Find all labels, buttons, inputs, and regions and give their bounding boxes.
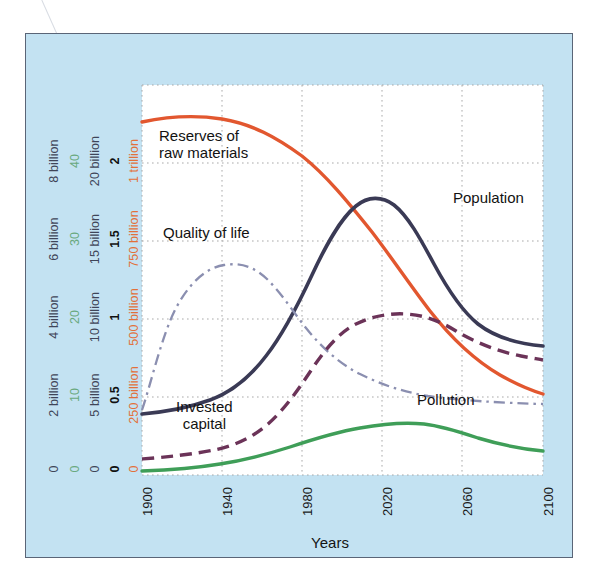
y-axis-label-columns: 2 billion 4 billion 6 billion 8 billion … [44, 60, 144, 480]
y-tick-invested-4: 2 [108, 157, 122, 164]
y-tick-quality-1: 10 [68, 388, 82, 402]
y-axis-quality-column: 10 20 30 40 [65, 60, 85, 480]
y-tick-reserves-1: 250 billion [127, 366, 141, 423]
y-tick-reserves-4: 1 trillion [127, 139, 141, 183]
y-zero-reserves: 0 [127, 466, 141, 473]
y-axis-population-column: 2 billion 4 billion 6 billion 8 billion [44, 60, 64, 480]
y-tick-invested-1: 0.5 [108, 386, 122, 404]
y-zero-invested: 0 [108, 466, 122, 473]
y-axis-pollution-column: 5 billion 10 billion 15 billion 20 billi… [85, 60, 105, 480]
y-tick-quality-4: 40 [68, 154, 82, 168]
y-tick-population-4: 8 billion [47, 139, 61, 182]
annotation-reserves: Reserves of raw materials [159, 128, 248, 162]
x-tick-1980: 1980 [300, 487, 315, 516]
y-zero-quality: 0 [68, 466, 82, 473]
y-tick-quality-2: 20 [68, 310, 82, 324]
y-tick-pollution-2: 10 billion [88, 292, 102, 342]
figure-root: 2 billion 4 billion 6 billion 8 billion … [0, 0, 600, 583]
x-axis-title: Years [0, 534, 600, 551]
annotation-pollution: Pollution [417, 392, 475, 409]
x-tick-2020: 2020 [380, 487, 395, 516]
x-tick-2060: 2060 [460, 487, 475, 516]
x-tick-1900: 1900 [140, 487, 155, 516]
annotation-invested: Invested capital [176, 399, 233, 433]
y-zero-population: 0 [47, 466, 61, 473]
y-axis-zero-row: 0 0 0 0 0 [44, 462, 144, 482]
y-tick-pollution-4: 20 billion [88, 136, 102, 186]
y-tick-invested-2: 1 [108, 313, 122, 320]
y-zero-pollution: 0 [88, 466, 102, 473]
y-tick-reserves-2: 500 billion [127, 288, 141, 345]
annotation-population: Population [453, 190, 524, 207]
annotation-quality: Quality of life [163, 225, 250, 242]
y-axis-invested-column: 0.5 1 1.5 2 [105, 60, 125, 480]
y-tick-reserves-3: 750 billion [127, 210, 141, 267]
y-axis-reserves-column: 250 billion 500 billion 750 billion 1 tr… [124, 60, 144, 480]
y-tick-population-2: 4 billion [47, 295, 61, 338]
y-tick-pollution-1: 5 billion [88, 373, 102, 416]
x-axis-title-text: Years [311, 534, 349, 551]
x-axis-ticks: 1900 1940 1980 2020 2060 2100 [0, 482, 600, 532]
x-tick-1940: 1940 [220, 487, 235, 516]
x-tick-2100: 2100 [541, 487, 556, 516]
y-tick-quality-3: 30 [68, 232, 82, 246]
y-tick-population-1: 2 billion [47, 373, 61, 416]
y-tick-population-3: 6 billion [47, 217, 61, 260]
y-tick-pollution-3: 15 billion [88, 214, 102, 264]
y-tick-invested-3: 1.5 [108, 230, 122, 248]
